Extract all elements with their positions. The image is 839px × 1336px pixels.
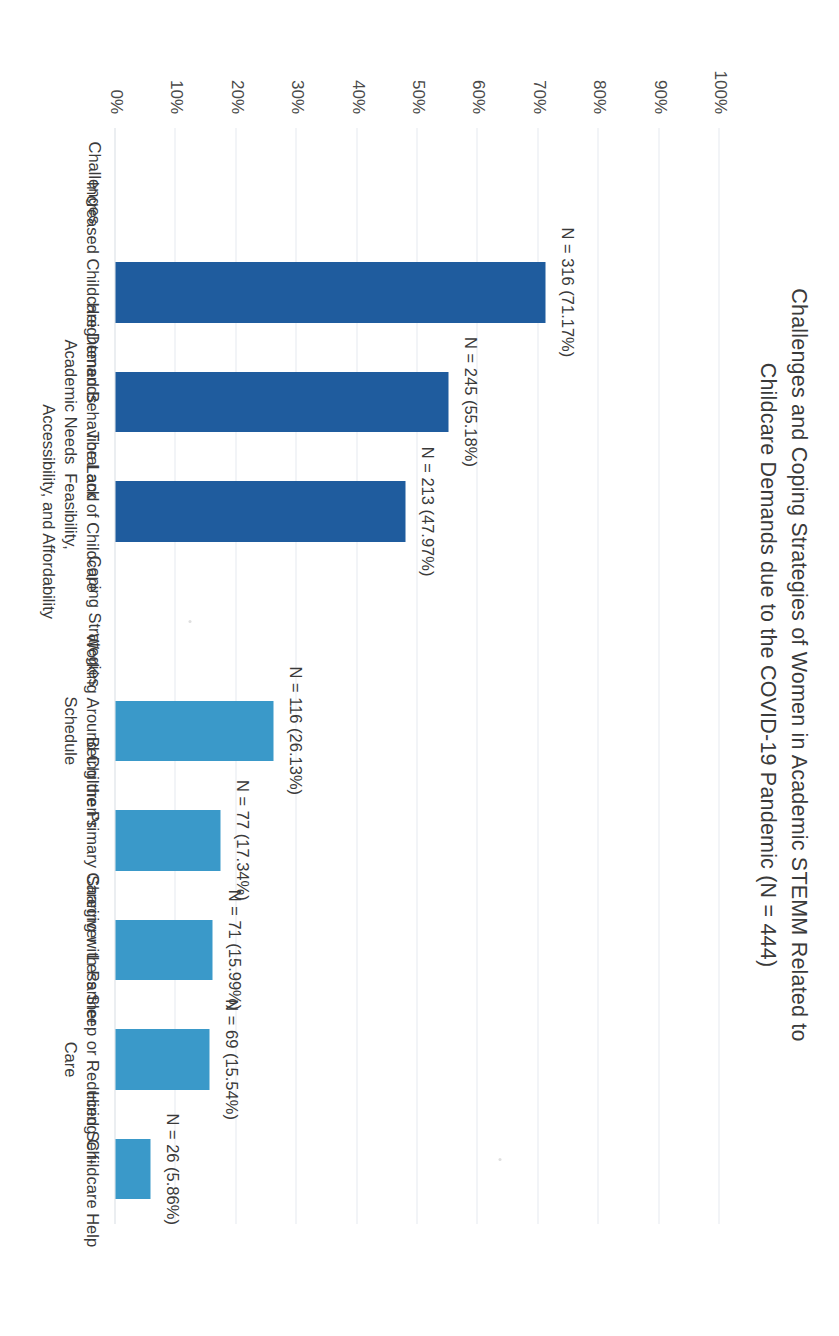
category-label-line: Accessibility, and Affordability bbox=[37, 397, 59, 627]
bar-value-label: N = 77 (17.34%) bbox=[232, 780, 251, 901]
bar-rect bbox=[115, 372, 448, 432]
y-axis-tick-label: 70% bbox=[528, 80, 548, 114]
chart-title-line-2: Childcare Demands due to the COVID-19 Pa… bbox=[752, 60, 783, 1270]
group-label: Challenges bbox=[84, 73, 103, 292]
bar-rect bbox=[115, 1139, 150, 1199]
chart-page: Challenges and Coping Strategies of Wome… bbox=[0, 0, 839, 1336]
bar-series: N = 316 (71.17%)N = 245 (55.18%)N = 213 … bbox=[115, 128, 719, 1224]
bar[interactable]: N = 245 (55.18%) bbox=[115, 372, 448, 432]
scan-artifact bbox=[188, 620, 191, 623]
y-axis-tick-label: 90% bbox=[649, 80, 669, 114]
y-axis-tick-label: 10% bbox=[165, 80, 185, 114]
y-axis-tick-label: 50% bbox=[407, 80, 427, 114]
bar[interactable]: N = 71 (15.99%) bbox=[115, 920, 212, 980]
bar-rect bbox=[115, 810, 220, 870]
bar-value-label: N = 71 (15.99%) bbox=[224, 890, 243, 1011]
bar[interactable]: N = 26 (5.86%) bbox=[115, 1139, 150, 1199]
bar-rect bbox=[115, 481, 405, 541]
y-axis-tick-label: 100% bbox=[709, 71, 729, 114]
group-label: Coping Strategies bbox=[84, 512, 103, 731]
chart-title-line-1: Challenges and Coping Strategies of Wome… bbox=[782, 60, 813, 1270]
bar-value-label: N = 26 (5.86%) bbox=[162, 1113, 181, 1224]
category-axis-labels: Increased Childcare DemandsHeightened Be… bbox=[5, 128, 115, 1224]
y-axis-tick-label: 40% bbox=[347, 80, 367, 114]
bar[interactable]: N = 316 (71.17%) bbox=[115, 262, 545, 322]
y-axis-tick-label: 30% bbox=[286, 80, 306, 114]
bar-rect bbox=[115, 262, 545, 322]
bar-rect bbox=[115, 920, 212, 980]
y-axis-tick-label: 0% bbox=[105, 89, 125, 114]
bar-value-label: N = 69 (15.54%) bbox=[221, 999, 240, 1120]
rotated-figure-wrapper: Challenges and Coping Strategies of Wome… bbox=[0, 0, 839, 1336]
bar[interactable]: N = 116 (26.13%) bbox=[115, 701, 273, 761]
y-axis-tick-label: 80% bbox=[588, 80, 608, 114]
y-axis-tick-label: 60% bbox=[467, 80, 487, 114]
bar-rect bbox=[115, 1029, 209, 1089]
bar-chart-figure: Challenges and Coping Strategies of Wome… bbox=[0, 0, 839, 1336]
bar-value-label: N = 116 (26.13%) bbox=[285, 667, 304, 796]
chart-title: Challenges and Coping Strategies of Wome… bbox=[752, 60, 813, 1270]
plot-area: 0%10%20%30%40%50%60%70%80%90%100% N = 31… bbox=[115, 128, 719, 1224]
bar-value-label: N = 213 (47.97%) bbox=[417, 447, 436, 577]
bar[interactable]: N = 69 (15.54%) bbox=[115, 1029, 209, 1089]
bar-value-label: N = 316 (71.17%) bbox=[557, 227, 576, 357]
scan-artifact bbox=[498, 1158, 501, 1161]
category-label-line: Hiring Childcare Help bbox=[81, 1054, 103, 1284]
y-axis-tick-label: 20% bbox=[226, 80, 246, 114]
category-label: Hiring Childcare Help bbox=[81, 1054, 103, 1284]
bar[interactable]: N = 77 (17.34%) bbox=[115, 810, 220, 870]
bar-rect bbox=[115, 701, 273, 761]
bar-value-label: N = 245 (55.18%) bbox=[460, 337, 479, 467]
bar[interactable]: N = 213 (47.97%) bbox=[115, 481, 405, 541]
